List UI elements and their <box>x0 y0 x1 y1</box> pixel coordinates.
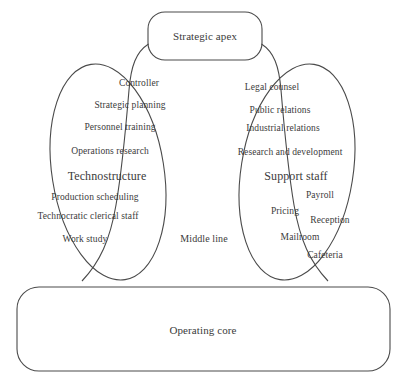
technostructure-item: Production scheduling <box>51 193 138 203</box>
middle-line-label: Middle line <box>180 234 227 244</box>
support-staff-item: Industrial relations <box>246 124 320 134</box>
technostructure-item: Operations research <box>71 147 149 157</box>
technostructure-item: Controller <box>119 79 159 89</box>
support-staff-item: Mailroom <box>281 233 320 243</box>
support-staff-item: Research and development <box>238 148 343 158</box>
support-staff-item: Payroll <box>306 191 334 201</box>
technostructure-item: Technocratic clerical staff <box>37 212 138 222</box>
support-staff-item: Public relations <box>250 106 311 116</box>
technostructure-item: Personnel training <box>84 123 155 133</box>
strategic-apex-label: Strategic apex <box>173 31 237 42</box>
support-staff-heading: Support staff <box>264 170 327 182</box>
support-staff-item: Pricing <box>271 207 299 217</box>
technostructure-item: Work study <box>63 235 108 245</box>
support-staff-item: Reception <box>310 216 349 226</box>
technostructure-item: Strategic planning <box>94 101 165 111</box>
support-staff-item: Cafeteria <box>307 251 343 261</box>
support-staff-item: Legal counsel <box>245 83 299 93</box>
operating-core-label: Operating core <box>169 325 236 336</box>
middle-line-right-curve <box>262 44 329 281</box>
technostructure-heading: Technostructure <box>68 170 147 182</box>
mintzberg-organization-diagram: Strategic apex Middle line Operating cor… <box>0 0 406 389</box>
